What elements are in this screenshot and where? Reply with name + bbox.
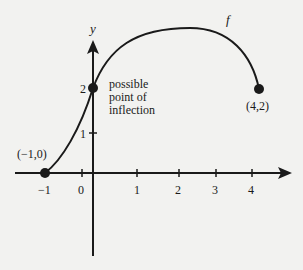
x-tick-label-4: 4 xyxy=(248,183,254,197)
x-tick-label-3: 3 xyxy=(212,183,218,197)
x-tick-label-2: 2 xyxy=(175,183,181,197)
y-axis-label: y xyxy=(88,21,96,36)
graph-figure: y f −1 0 1 2 3 4 1 2 (−1,0) (4,2) possib… xyxy=(0,0,303,270)
x-tick-label-neg1: −1 xyxy=(38,183,51,197)
left-endpoint-label: (−1,0) xyxy=(17,147,47,161)
annotation-line2: point of xyxy=(109,90,147,104)
right-endpoint-label: (4,2) xyxy=(246,99,269,113)
point-right-endpoint xyxy=(254,84,264,94)
function-label: f xyxy=(226,12,232,27)
point-left-endpoint xyxy=(40,168,50,178)
x-tick-label-0: 0 xyxy=(78,183,84,197)
y-tick-label-1: 1 xyxy=(80,127,86,141)
annotation-line1: possible xyxy=(109,77,148,91)
function-curve xyxy=(45,28,259,173)
point-inflection xyxy=(88,83,98,93)
annotation-line3: inflection xyxy=(109,103,155,117)
x-tick-label-1: 1 xyxy=(134,183,140,197)
y-tick-label-2: 2 xyxy=(80,82,86,96)
